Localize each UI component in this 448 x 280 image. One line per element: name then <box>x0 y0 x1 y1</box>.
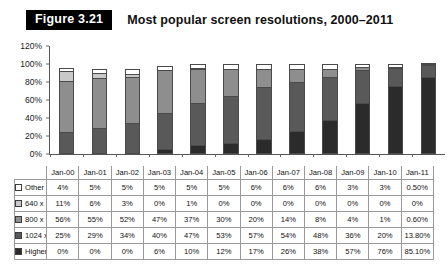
bar-segment <box>223 143 238 154</box>
legend-entry: Higher <box>15 244 47 260</box>
legend-label: Other <box>25 183 44 192</box>
table-cell: 0% <box>111 244 143 260</box>
bar-segment <box>421 65 436 77</box>
stacked-bar[interactable] <box>157 66 172 154</box>
bar-slot <box>313 46 346 154</box>
y-axis-labels: 0%20%40%60%80%100%120% <box>0 46 46 154</box>
stacked-bar[interactable] <box>256 64 271 154</box>
y-axis-tick-mark <box>46 46 49 47</box>
table-row: 800 x 60056%55%52%47%37%30%20%14%8%4%1%0… <box>15 212 434 228</box>
table-cell: 20% <box>369 228 401 244</box>
stacked-bar[interactable] <box>125 69 140 154</box>
legend-label: Higher <box>25 247 47 256</box>
y-axis-tick-label: 100% <box>20 59 42 69</box>
stacked-bars <box>50 46 445 154</box>
table-column-header: Jan-02 <box>111 166 143 180</box>
table-cell: 0.50% <box>401 180 433 196</box>
table-cell: 48% <box>304 228 336 244</box>
table-cell: 6% <box>272 180 304 196</box>
table-cell: 53% <box>208 228 240 244</box>
table-cell: 1% <box>369 212 401 228</box>
table-cell: 0% <box>47 244 79 260</box>
y-axis-tick-label: 60% <box>25 95 42 105</box>
table-cell: 0% <box>272 196 304 212</box>
figure-title-row: Figure 3.21 Most popular screen resoluti… <box>0 9 448 31</box>
table-body: Other4%5%5%5%5%5%6%6%6%3%3%0.50%640 x 48… <box>15 180 434 260</box>
bar-slot <box>83 46 116 154</box>
bar-segment <box>92 78 107 128</box>
x-axis-tick-mark <box>313 154 314 157</box>
bar-slot <box>412 46 445 154</box>
table-column-header: Jan-03 <box>143 166 175 180</box>
chart-plot-area: 0%20%40%60%80%100%120% <box>0 46 448 170</box>
stacked-bar[interactable] <box>289 64 304 154</box>
table-cell: 4% <box>337 212 369 228</box>
y-axis-tick-mark <box>46 118 49 119</box>
page-title: Most popular screen resolutions, 2000–20… <box>127 13 393 27</box>
table-cell: 55% <box>79 212 111 228</box>
legend-swatch-icon <box>15 248 22 255</box>
stacked-bar[interactable] <box>322 64 337 154</box>
table-cell: 52% <box>111 212 143 228</box>
bar-segment <box>289 69 304 82</box>
bar-segment <box>157 149 172 154</box>
stacked-bar[interactable] <box>355 64 370 154</box>
stacked-bar[interactable] <box>59 68 74 154</box>
table-row: Other4%5%5%5%5%5%6%6%6%3%3%0.50% <box>15 180 434 196</box>
table-cell: 47% <box>143 212 175 228</box>
table-cell: 11% <box>47 196 79 212</box>
bar-segment <box>223 69 238 96</box>
table-column-header: Jan-08 <box>304 166 336 180</box>
table-cell: 3% <box>337 180 369 196</box>
stacked-bar[interactable] <box>190 64 205 154</box>
table-cell: 0% <box>304 196 336 212</box>
bar-segment <box>322 120 337 154</box>
bar-segment <box>388 86 403 154</box>
legend-entry: Other <box>15 180 47 196</box>
table-cell: 85.10% <box>401 244 433 260</box>
table-cell: 38% <box>304 244 336 260</box>
bar-slot <box>379 46 412 154</box>
bar-segment <box>59 132 74 155</box>
table-cell: 6% <box>79 196 111 212</box>
bar-segment <box>92 128 107 154</box>
table-cell: 34% <box>111 228 143 244</box>
bar-segment <box>157 113 172 149</box>
legend-label: 1024 x 768 <box>25 231 47 240</box>
table-cell: 13.80% <box>401 228 433 244</box>
legend-entry: 800 x 600 <box>15 212 47 228</box>
stacked-bar[interactable] <box>388 64 403 154</box>
table-row: 640 x 48011%6%3%0%1%0%0%0%0%0%0%0% <box>15 196 434 212</box>
bar-segment <box>421 77 436 154</box>
x-axis-tick-mark <box>149 154 150 157</box>
stacked-bar[interactable] <box>92 69 107 154</box>
x-axis-tick-mark <box>346 154 347 157</box>
table-cell: 5% <box>176 180 208 196</box>
bar-slot <box>215 46 248 154</box>
bar-slot <box>346 46 379 154</box>
table-cell: 0.60% <box>401 212 433 228</box>
legend-swatch-icon <box>15 184 22 191</box>
table-cell: 0% <box>401 196 433 212</box>
stacked-bar[interactable] <box>421 63 436 154</box>
table-cell: 0% <box>369 196 401 212</box>
bar-slot <box>149 46 182 154</box>
table-column-header: Jan-09 <box>337 166 369 180</box>
bar-segment <box>289 131 304 154</box>
table-cell: 5% <box>208 180 240 196</box>
bar-segment <box>190 69 205 102</box>
bar-slot <box>280 46 313 154</box>
table-column-header: Jan-11 <box>401 166 433 180</box>
bar-segment <box>322 77 337 120</box>
table-cell: 30% <box>208 212 240 228</box>
table-cell: 0% <box>143 196 175 212</box>
table-cell: 6% <box>240 180 272 196</box>
x-axis-tick-mark <box>50 154 51 157</box>
table-cell: 57% <box>240 228 272 244</box>
bar-segment <box>355 70 370 102</box>
bar-segment <box>59 71 74 81</box>
stacked-bar[interactable] <box>223 64 238 154</box>
y-axis-tick-label: 80% <box>25 77 42 87</box>
bar-segment <box>322 69 337 76</box>
table-cell: 6% <box>304 180 336 196</box>
